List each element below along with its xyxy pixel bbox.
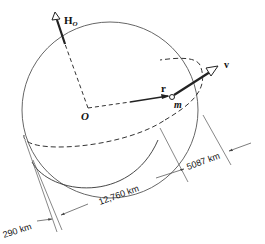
dim-5087-label: 5087 km <box>185 151 221 172</box>
h-vector-arrowhead <box>52 12 60 20</box>
v-vector-shaft <box>174 72 210 95</box>
h-label: HO <box>64 14 78 28</box>
earth-circle <box>22 22 198 198</box>
dim-12760-arrow-left <box>61 204 88 215</box>
v-label: v <box>224 59 229 70</box>
dim-290-label: 290 km <box>2 221 33 240</box>
dim-5087-arrow-right <box>229 143 251 151</box>
orbit-diagram: HO O r m v 290 km 12,760 km 5087 km <box>0 0 265 244</box>
r-vector-arrowhead <box>161 94 170 99</box>
dim-12760-arrow-right <box>156 169 184 178</box>
origin-label: O <box>81 110 89 122</box>
h-axis-dashed <box>65 44 88 108</box>
dim-290-arrow <box>37 219 52 221</box>
r-label: r <box>161 82 166 94</box>
ext-line-3 <box>160 128 188 182</box>
radius-dashed <box>88 102 130 108</box>
mass-label: m <box>174 99 182 110</box>
ext-line-1 <box>25 140 57 232</box>
